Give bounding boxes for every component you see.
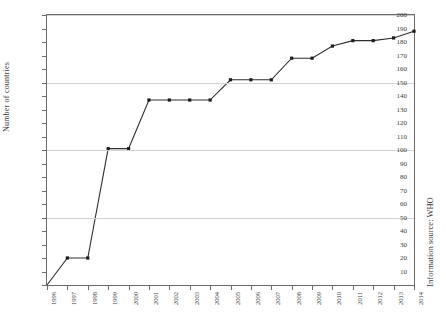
y-tick-160 bbox=[42, 69, 47, 70]
x-tick-label-2004: 2004 bbox=[213, 292, 220, 305]
series-line bbox=[47, 31, 414, 285]
x-tick-2003 bbox=[190, 285, 191, 290]
x-tick-2007 bbox=[271, 285, 272, 290]
gridline-200 bbox=[47, 15, 414, 16]
y-tick-170 bbox=[42, 56, 47, 57]
x-tick-label-2003: 2003 bbox=[193, 292, 200, 305]
data-point-2006 bbox=[249, 78, 252, 81]
x-tick-2014 bbox=[414, 285, 415, 290]
x-tick-2010 bbox=[332, 285, 333, 290]
y-tick-20 bbox=[42, 258, 47, 259]
x-tick-label-2013: 2013 bbox=[397, 292, 404, 305]
y-tick-70 bbox=[42, 191, 47, 192]
y-tick-180 bbox=[42, 42, 47, 43]
y-tick-label-130: 130 bbox=[397, 106, 408, 114]
gridline-50 bbox=[47, 218, 414, 219]
data-point-2005 bbox=[229, 78, 232, 81]
y-tick-130 bbox=[42, 110, 47, 111]
y-tick-label-10: 10 bbox=[400, 268, 407, 276]
x-tick-1998 bbox=[88, 285, 89, 290]
y-tick-label-80: 80 bbox=[400, 173, 407, 181]
source-annotation: Information source: WHO bbox=[425, 162, 435, 322]
y-tick-label-100: 100 bbox=[397, 146, 408, 154]
data-point-2011 bbox=[351, 39, 354, 42]
y-tick-label-140: 140 bbox=[397, 92, 408, 100]
y-tick-label-70: 70 bbox=[400, 187, 407, 195]
chart-container: Number of countries Information source: … bbox=[0, 0, 446, 324]
x-tick-label-2009: 2009 bbox=[315, 292, 322, 305]
y-tick-110 bbox=[42, 137, 47, 138]
y-tick-label-180: 180 bbox=[397, 38, 408, 46]
x-tick-2006 bbox=[251, 285, 252, 290]
y-tick-190 bbox=[42, 29, 47, 30]
y-tick-label-150: 150 bbox=[397, 79, 408, 87]
x-tick-label-1996: 1996 bbox=[50, 292, 57, 305]
data-point-2013 bbox=[392, 36, 395, 39]
x-tick-2004 bbox=[210, 285, 211, 290]
x-tick-label-2002: 2002 bbox=[172, 292, 179, 305]
x-tick-label-2006: 2006 bbox=[254, 292, 261, 305]
y-tick-80 bbox=[42, 177, 47, 178]
data-point-2003 bbox=[188, 98, 191, 101]
gridline-150 bbox=[47, 83, 414, 84]
x-tick-1996 bbox=[47, 285, 48, 290]
data-point-2008 bbox=[290, 57, 293, 60]
y-tick-label-160: 160 bbox=[397, 65, 408, 73]
x-tick-2011 bbox=[353, 285, 354, 290]
data-point-2007 bbox=[270, 78, 273, 81]
y-tick-200 bbox=[42, 15, 47, 16]
data-point-1997 bbox=[66, 256, 69, 259]
gridline-100 bbox=[47, 150, 414, 151]
x-tick-label-1997: 1997 bbox=[70, 292, 77, 305]
data-point-2004 bbox=[209, 98, 212, 101]
x-tick-2005 bbox=[231, 285, 232, 290]
data-point-2010 bbox=[331, 44, 334, 47]
y-tick-50 bbox=[42, 218, 47, 219]
y-tick-label-190: 190 bbox=[397, 25, 408, 33]
y-tick-90 bbox=[42, 164, 47, 165]
x-tick-label-2000: 2000 bbox=[132, 292, 139, 305]
y-tick-10 bbox=[42, 272, 47, 273]
x-tick-label-2001: 2001 bbox=[152, 292, 159, 305]
x-tick-1997 bbox=[67, 285, 68, 290]
x-tick-2000 bbox=[129, 285, 130, 290]
y-tick-label-20: 20 bbox=[400, 254, 407, 262]
x-tick-2012 bbox=[373, 285, 374, 290]
data-point-2002 bbox=[168, 98, 171, 101]
data-point-1998 bbox=[86, 256, 89, 259]
y-tick-label-60: 60 bbox=[400, 200, 407, 208]
y-tick-label-170: 170 bbox=[397, 52, 408, 60]
y-tick-120 bbox=[42, 123, 47, 124]
x-tick-label-2010: 2010 bbox=[335, 292, 342, 305]
x-tick-label-2007: 2007 bbox=[274, 292, 281, 305]
x-tick-label-1998: 1998 bbox=[91, 292, 98, 305]
plot-area: 1020304050607080901001101201301401501601… bbox=[46, 14, 415, 286]
y-tick-100 bbox=[42, 150, 47, 151]
y-tick-60 bbox=[42, 204, 47, 205]
y-tick-150 bbox=[42, 83, 47, 84]
data-point-2014 bbox=[412, 30, 415, 33]
y-tick-label-200: 200 bbox=[397, 11, 408, 19]
x-tick-2008 bbox=[292, 285, 293, 290]
y-tick-30 bbox=[42, 245, 47, 246]
x-tick-2013 bbox=[394, 285, 395, 290]
y-tick-40 bbox=[42, 231, 47, 232]
y-axis-title: Number of countries bbox=[2, 12, 11, 132]
x-tick-label-2005: 2005 bbox=[234, 292, 241, 305]
x-tick-label-2012: 2012 bbox=[376, 292, 383, 305]
y-tick-label-110: 110 bbox=[397, 133, 407, 141]
x-tick-label-2011: 2011 bbox=[356, 292, 363, 305]
y-tick-label-40: 40 bbox=[400, 227, 407, 235]
x-tick-label-1999: 1999 bbox=[111, 292, 118, 305]
data-point-2009 bbox=[310, 57, 313, 60]
data-point-2012 bbox=[372, 39, 375, 42]
y-tick-label-90: 90 bbox=[400, 160, 407, 168]
x-tick-2009 bbox=[312, 285, 313, 290]
x-tick-2001 bbox=[149, 285, 150, 290]
data-point-2001 bbox=[147, 98, 150, 101]
x-tick-1999 bbox=[108, 285, 109, 290]
x-tick-2002 bbox=[169, 285, 170, 290]
x-tick-label-2008: 2008 bbox=[295, 292, 302, 305]
y-tick-label-30: 30 bbox=[400, 241, 407, 249]
y-tick-label-120: 120 bbox=[397, 119, 408, 127]
